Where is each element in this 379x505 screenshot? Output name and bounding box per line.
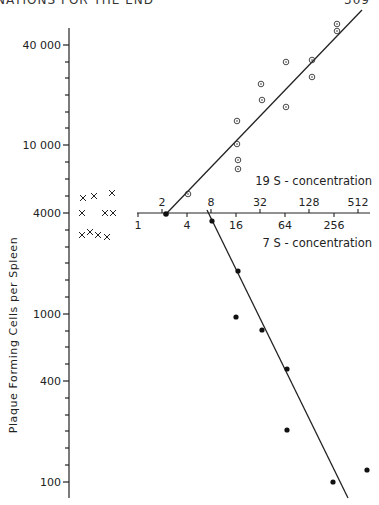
svg-text:128: 128 — [299, 196, 320, 209]
svg-text:40 000: 40 000 — [23, 39, 62, 52]
x-tick-labels-bottom: 1 4 16 64 256 — [135, 219, 345, 232]
y-tick-labels: 40 000 10 000 4000 1000 400 100 — [23, 39, 62, 489]
chart: 40 000 10 000 4000 1000 400 100 Plaque F… — [0, 0, 379, 505]
x-label-7s: 7 S - concentration — [263, 236, 372, 250]
svg-text:64: 64 — [278, 219, 292, 232]
svg-text:8: 8 — [208, 196, 215, 209]
fit-line-7s — [207, 210, 348, 498]
markers-7s — [163, 211, 369, 484]
svg-text:400: 400 — [40, 375, 61, 388]
svg-text:4000: 4000 — [33, 207, 61, 220]
control-markers — [79, 190, 116, 240]
svg-text:1000: 1000 — [33, 308, 61, 321]
svg-text:100: 100 — [40, 476, 61, 489]
svg-text:32: 32 — [253, 196, 267, 209]
svg-text:1: 1 — [135, 219, 142, 232]
y-axis — [63, 28, 69, 498]
svg-text:512: 512 — [348, 196, 369, 209]
y-axis-label: Plaque Forming Cells per Spleen — [7, 237, 20, 434]
x-axis — [137, 209, 370, 217]
svg-text:4: 4 — [184, 219, 191, 232]
svg-text:16: 16 — [229, 219, 243, 232]
svg-text:2: 2 — [159, 196, 166, 209]
x-tick-labels-top: 2 8 32 128 512 — [159, 196, 369, 209]
svg-text:10 000: 10 000 — [23, 139, 62, 152]
svg-text:256: 256 — [324, 219, 345, 232]
x-label-19s: 19 S - concentration — [255, 174, 372, 188]
